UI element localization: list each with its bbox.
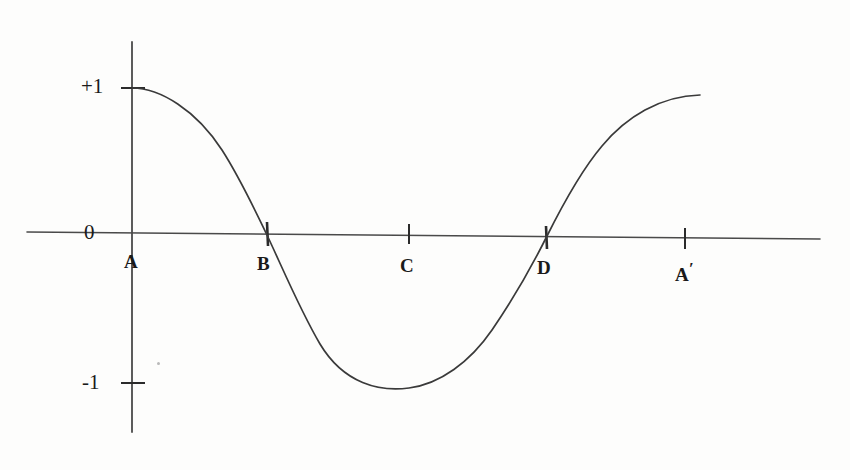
- x-axis-line: [27, 232, 820, 239]
- point-label-a: A: [124, 252, 138, 271]
- scan-speck: [157, 362, 160, 365]
- origin-label: 0: [84, 222, 95, 243]
- y-label-minus-one: -1: [82, 372, 100, 393]
- y-label-plus-one: +1: [81, 76, 103, 97]
- cosine-plot-svg: [0, 0, 850, 470]
- cosine-curve: [132, 88, 700, 389]
- prime-mark: ′: [689, 259, 694, 278]
- figure-canvas: +1 -1 0 A B C D A′: [0, 0, 850, 470]
- point-label-a-prime: A′: [675, 260, 694, 284]
- point-label-a-prime-letter: A: [675, 264, 689, 285]
- point-label-c: C: [400, 256, 414, 275]
- point-label-b: B: [257, 254, 270, 273]
- point-label-d: D: [537, 258, 551, 277]
